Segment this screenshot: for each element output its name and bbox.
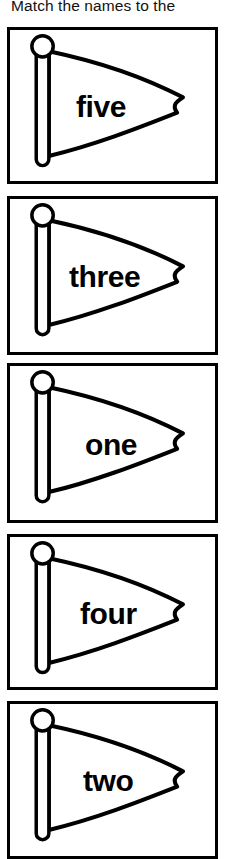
pennant-flag-icon bbox=[10, 537, 215, 687]
flag-card-five[interactable]: five bbox=[7, 27, 218, 184]
flag-card-one[interactable]: one bbox=[7, 363, 218, 523]
flag-card-three[interactable]: three bbox=[7, 196, 218, 355]
pennant-flag-icon bbox=[10, 199, 215, 352]
pennant-flag-icon bbox=[10, 30, 215, 181]
pennant-flag-icon bbox=[10, 704, 215, 856]
flag-card-two[interactable]: two bbox=[7, 701, 218, 859]
flag-card-four[interactable]: four bbox=[7, 534, 218, 690]
pennant-flag-icon bbox=[10, 366, 215, 520]
